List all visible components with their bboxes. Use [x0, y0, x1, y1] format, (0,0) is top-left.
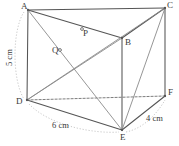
vertex-label-d: D: [16, 97, 23, 106]
prism-diagonal-a-e: [28, 10, 122, 130]
vertex-label-c: C: [167, 1, 173, 10]
prism-diagonal-c-e: [122, 8, 165, 130]
vertex-dot-c: [164, 7, 166, 9]
vertex-label-e: E: [120, 133, 126, 142]
vertex-label-b: B: [125, 38, 131, 47]
prism-edge-d-e: [27, 100, 122, 130]
measurement-label-de: 6 cm: [52, 121, 69, 130]
prism-diagonal-d-c: [27, 8, 165, 100]
vertex-label-q: Q: [52, 46, 59, 55]
vertex-dot-d: [26, 99, 28, 101]
vertex-label-a: A: [21, 2, 28, 11]
vertex-dot-b: [121, 37, 123, 39]
geometry-figure: ACPBQDFE 5 cm6 cm4 cm: [0, 0, 179, 146]
vertex-dot-e: [121, 129, 123, 131]
point-marker-q: [59, 49, 62, 52]
prism-edge-group: [27, 8, 165, 130]
prism-edge-a-d: [27, 10, 28, 100]
prism-edge-a-c: [28, 8, 165, 10]
measurement-label-ad: 5 cm: [5, 49, 14, 66]
measurement-label-ef: 4 cm: [146, 114, 163, 123]
measurement-arc: [15, 12, 24, 99]
vertex-label-p: P: [83, 29, 88, 38]
vertex-dot-f: [164, 95, 166, 97]
vertex-label-f: F: [168, 88, 173, 97]
prism-edge-a-b: [28, 10, 122, 38]
prism-drawing: [0, 0, 179, 146]
